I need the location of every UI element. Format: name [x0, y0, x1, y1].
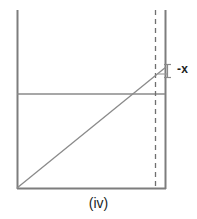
diagonal-line	[17, 67, 166, 188]
geometry-diagram	[0, 0, 197, 219]
figure-container: -x (iv)	[0, 0, 197, 219]
minus-x-label: -x	[177, 63, 188, 75]
figure-caption: (iv)	[0, 196, 197, 210]
